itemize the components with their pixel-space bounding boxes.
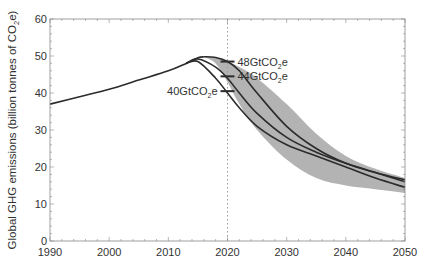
x-tick-label: 1990 xyxy=(38,246,62,258)
annotation-label: 48GtCO2e xyxy=(238,56,288,70)
x-tick-label: 2040 xyxy=(334,246,358,258)
y-tick-label: 60 xyxy=(35,13,47,25)
y-tick-label: 50 xyxy=(35,50,47,62)
x-tick-label: 2030 xyxy=(274,246,298,258)
x-tick-label: 2020 xyxy=(215,246,239,258)
y-tick-label: 40 xyxy=(35,87,47,99)
y-tick-label: 30 xyxy=(35,124,47,136)
x-tick-label: 2010 xyxy=(156,246,180,258)
y-tick-label: 20 xyxy=(35,161,47,173)
y-axis-title: Global GHG emissions (billion tonnes of … xyxy=(6,10,21,249)
annotation-label: 40GtCO2e xyxy=(167,85,217,99)
annotation-label: 44GtCO2e xyxy=(238,70,288,84)
y-tick-label: 10 xyxy=(35,198,47,210)
emissions-chart: 0102030405060199020002010202020302040205… xyxy=(0,0,437,273)
x-tick-label: 2000 xyxy=(97,246,121,258)
axes: 0102030405060199020002010202020302040205… xyxy=(35,13,417,258)
x-tick-label: 2050 xyxy=(393,246,417,258)
y-axis-label: Global GHG emissions (billion tonnes of … xyxy=(6,10,21,249)
